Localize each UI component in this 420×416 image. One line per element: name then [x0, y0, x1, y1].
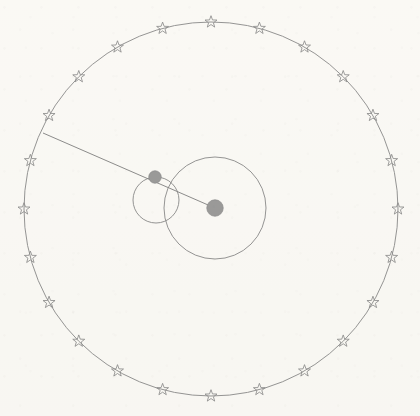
fixed-star-icon — [299, 41, 311, 52]
fixed-star-icon — [299, 365, 311, 376]
epicycle-diagram-canvas — [0, 0, 420, 416]
fixed-star-icon — [112, 365, 124, 376]
epicycle-circle — [133, 177, 179, 223]
fixed-star-icon — [253, 22, 265, 33]
fixed-star-icon — [205, 16, 217, 27]
fixed-star-icon — [157, 22, 169, 33]
fixed-star-icon — [253, 383, 265, 394]
orbiting-body-dot — [149, 171, 161, 183]
sight-line — [43, 133, 215, 208]
fixed-star-icon — [112, 41, 124, 52]
fixed-star-icon — [157, 383, 169, 394]
diagram-root — [0, 0, 420, 416]
bodies-group — [149, 171, 223, 216]
sight-line-group — [43, 133, 215, 208]
central-body-dot — [207, 200, 223, 216]
fixed-star-icon — [205, 390, 217, 401]
